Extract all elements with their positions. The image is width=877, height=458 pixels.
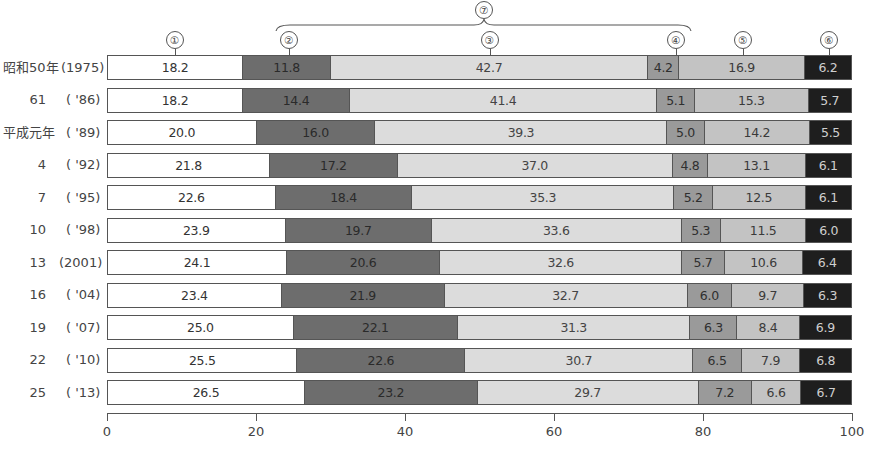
bar-segment-2: 17.2 [270,154,398,177]
bar-segment-6: 6.2 [805,56,851,79]
bar-segment-2: 19.7 [286,219,432,242]
era-label: 10 [29,217,46,243]
bar-segment-1: 18.2 [108,89,243,112]
bar-segment-5: 12.5 [713,186,806,209]
bar-segment-3: 32.7 [445,284,688,307]
era-label: 25 [29,380,46,406]
x-axis-tick-label: 40 [385,424,425,439]
bar-segment-6: 5.7 [809,89,851,112]
era-label: 7 [38,185,46,211]
era-label: 22 [29,347,46,373]
bar-segment-3: 30.7 [465,349,693,372]
row-label: 昭和50年(1975) [0,55,103,81]
bar-segment-1: 23.4 [108,284,282,307]
bar-segment-2: 20.6 [287,251,440,274]
bar-segment-6: 5.5 [810,121,851,144]
stacked-bar: 26.523.229.77.26.66.7 [107,380,852,405]
year-label: ( '92) [66,152,100,178]
x-axis-tick-label: 60 [534,424,574,439]
row-label: 13(2001) [0,250,103,276]
bar-segment-1: 23.9 [108,219,286,242]
bar-segment-6: 6.8 [800,349,851,372]
era-label: 16 [29,282,46,308]
bar-segment-1: 25.5 [108,349,297,372]
bar-segment-5: 15.3 [695,89,809,112]
bar-segment-6: 6.9 [800,316,851,339]
row-label: 7( '95) [0,185,103,211]
stacked-bar: 25.022.131.36.38.46.9 [107,315,852,340]
segment-marker-4: ④ [667,31,685,49]
x-axis-tick-label: 20 [236,424,276,439]
bar-segment-5: 16.9 [679,56,805,79]
year-label: ( '89) [66,120,100,146]
x-axis-tick [554,413,555,421]
bar-segment-2: 21.9 [282,284,445,307]
bar-segment-5: 9.7 [732,284,804,307]
bar-segment-5: 7.9 [742,349,801,372]
bar-segment-5: 8.4 [737,316,799,339]
bar-segment-4: 5.1 [657,89,695,112]
bar-segment-1: 22.6 [108,186,276,209]
bar-segment-4: 4.8 [673,154,709,177]
bar-segment-3: 29.7 [478,381,699,404]
bar-segment-3: 37.0 [398,154,673,177]
stacked-bar: 25.522.630.76.57.96.8 [107,348,852,373]
year-label: (1975) [61,55,104,81]
segment-marker-2: ② [280,31,298,49]
bar-segment-2: 16.0 [257,121,376,144]
segment-marker-5: ⑤ [734,31,752,49]
bar-segment-2: 18.4 [276,186,413,209]
bar-segment-2: 22.1 [294,316,458,339]
era-label: 61 [29,87,46,113]
bar-segment-4: 5.0 [667,121,704,144]
year-label: ( '98) [66,217,100,243]
x-axis-tick [405,413,406,421]
bar-segment-2: 11.8 [243,56,331,79]
stacked-bar: 22.618.435.35.212.56.1 [107,185,852,210]
row-label: 22( '10) [0,347,103,373]
year-label: ( '95) [66,185,100,211]
bar-segment-2: 23.2 [305,381,478,404]
bar-segment-6: 6.1 [806,154,851,177]
bar-segment-6: 6.4 [803,251,851,274]
row-label: 61( '86) [0,87,103,113]
bar-segment-6: 6.7 [801,381,851,404]
bar-segment-1: 18.2 [108,56,243,79]
stacked-bar-chart: ①②③④⑤⑥⑦ 昭和50年(1975)18.211.842.74.216.96.… [0,0,877,458]
group-brace-7 [0,0,877,60]
era-label: 昭和50年 [3,55,59,81]
bar-segment-6: 6.3 [804,284,851,307]
era-label: 4 [38,152,46,178]
bar-segment-6: 6.1 [806,186,851,209]
x-axis-tick [852,413,853,421]
row-label: 平成元年( '89) [0,120,103,146]
x-axis-tick-label: 80 [683,424,723,439]
segment-marker-6: ⑥ [820,31,838,49]
row-label: 19( '07) [0,315,103,341]
x-axis-tick-label: 0 [87,424,127,439]
x-axis-tick-label: 100 [832,424,872,439]
bar-segment-5: 6.6 [752,381,801,404]
stacked-bar: 21.817.237.04.813.16.1 [107,153,852,178]
bar-segment-3: 35.3 [412,186,674,209]
bar-segment-1: 24.1 [108,251,287,274]
stacked-bar: 23.421.932.76.09.76.3 [107,283,852,308]
x-axis-tick [256,413,257,421]
bar-segment-3: 31.3 [458,316,691,339]
year-label: ( '10) [66,347,100,373]
bar-segment-4: 6.3 [690,316,737,339]
bar-segment-5: 11.5 [721,219,806,242]
x-axis-tick [703,413,704,421]
year-label: ( '04) [66,282,100,308]
row-label: 4( '92) [0,152,103,178]
x-axis-tick [107,413,108,421]
row-label: 25( '13) [0,380,103,406]
segment-marker-3: ③ [481,31,499,49]
year-label: ( '07) [66,315,100,341]
era-label: 13 [29,250,46,276]
bar-segment-3: 42.7 [331,56,648,79]
bar-segment-1: 26.5 [108,381,305,404]
bar-segment-5: 10.6 [725,251,804,274]
bar-segment-2: 22.6 [297,349,465,372]
group-marker-7: ⑦ [475,1,493,19]
